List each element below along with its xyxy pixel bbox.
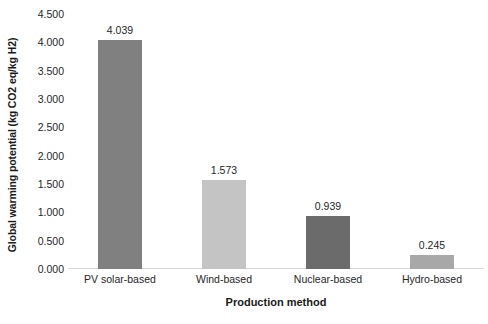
bar[interactable] xyxy=(98,40,142,269)
bar-group: 4.039 xyxy=(98,14,142,269)
y-axis-tick-label: 4.500 xyxy=(38,8,64,20)
bar-group: 0.939 xyxy=(306,14,350,269)
y-axis-tick-label: 2.500 xyxy=(38,121,64,133)
bar-group: 1.573 xyxy=(202,14,246,269)
y-axis-tick-label: 1.000 xyxy=(38,206,64,218)
bar-value-label: 1.573 xyxy=(202,164,246,176)
bar-value-label: 0.939 xyxy=(306,200,350,212)
bar[interactable] xyxy=(306,216,350,269)
x-axis-title: Production method xyxy=(68,296,484,308)
y-axis-tick-label: 2.000 xyxy=(38,150,64,162)
x-axis-tick-label: PV solar-based xyxy=(84,273,156,285)
y-axis-tick-label: 1.500 xyxy=(38,178,64,190)
y-axis-title: Global warming potential (kg CO2 eq/kg H… xyxy=(0,0,24,290)
x-axis-tick-labels: PV solar-basedWind-basedNuclear-basedHyd… xyxy=(68,273,484,291)
y-axis-title-text: Global warming potential (kg CO2 eq/kg H… xyxy=(6,38,18,253)
bar[interactable] xyxy=(202,180,246,269)
y-axis-tick-label: 0.500 xyxy=(38,235,64,247)
bar-value-label: 0.245 xyxy=(410,239,454,251)
x-axis-tick-label: Wind-based xyxy=(196,273,252,285)
x-axis-tick-label: Nuclear-based xyxy=(294,273,362,285)
y-axis-tick-labels: 0.0000.5001.0001.5002.0002.5003.0003.500… xyxy=(24,0,68,290)
y-axis-tick-label: 0.000 xyxy=(38,263,64,275)
bar-value-label: 4.039 xyxy=(98,24,142,36)
y-axis-tick-label: 3.000 xyxy=(38,93,64,105)
y-axis-tick-label: 3.500 xyxy=(38,65,64,77)
bar[interactable] xyxy=(410,255,454,269)
plot-area: 4.0391.5730.9390.245 xyxy=(68,14,484,269)
y-axis-tick-label: 4.000 xyxy=(38,36,64,48)
bar-chart-figure: Global warming potential (kg CO2 eq/kg H… xyxy=(0,0,488,324)
x-axis-tick-label: Hydro-based xyxy=(402,273,462,285)
bar-group: 0.245 xyxy=(410,14,454,269)
